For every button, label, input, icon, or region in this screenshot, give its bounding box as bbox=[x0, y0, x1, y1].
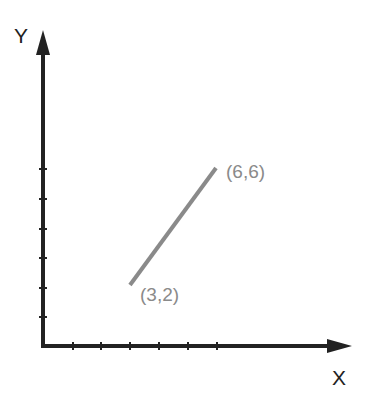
y-axis-label: Y bbox=[14, 24, 28, 48]
x-axis-arrow-icon bbox=[327, 339, 352, 353]
coordinate-plane bbox=[0, 0, 374, 407]
y-axis-arrow-icon bbox=[36, 30, 50, 55]
start-point-label: (3,2) bbox=[140, 284, 179, 306]
line-segment bbox=[130, 168, 216, 285]
end-point-label: (6,6) bbox=[226, 161, 265, 183]
x-axis-label: X bbox=[332, 366, 346, 390]
